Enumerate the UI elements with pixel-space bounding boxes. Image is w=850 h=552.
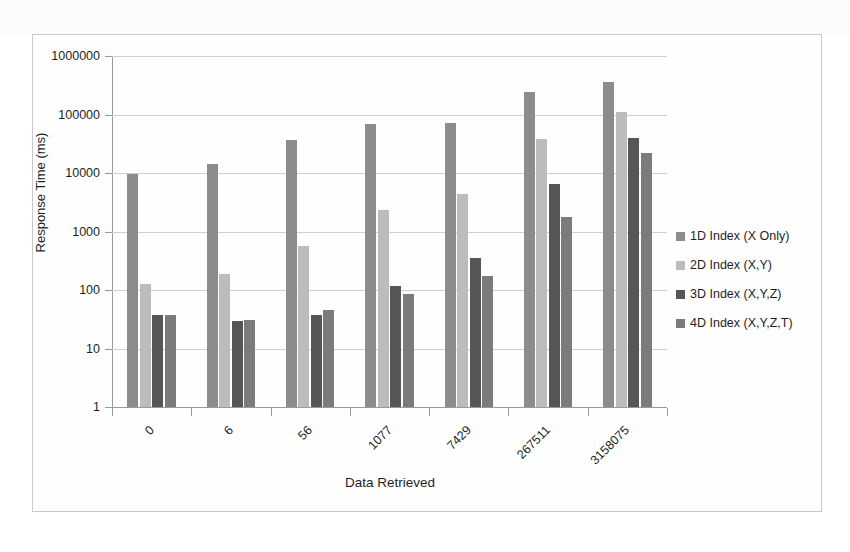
y-tick-mark-1 xyxy=(105,407,112,408)
x-axis-title: Data Retrieved xyxy=(225,475,555,490)
legend-item-3[interactable]: 3D Index (X,Y,Z) xyxy=(676,280,841,309)
x-tick-label-0: 0 xyxy=(62,423,157,518)
legend-label-4: 4D Index (X,Y,Z,T) xyxy=(690,317,793,330)
x-tick-label-6: 6 xyxy=(141,423,236,518)
legend-swatch-icon-3 xyxy=(676,290,685,299)
legend-swatch-icon-2 xyxy=(676,261,685,270)
legend-item-2[interactable]: 2D Index (X,Y) xyxy=(676,251,841,280)
legend-label-1: 1D Index (X Only) xyxy=(690,230,789,243)
x-tick-label-1077: 1077 xyxy=(300,423,395,518)
x-tick-label-3158075: 3158075 xyxy=(538,423,633,518)
x-tick-label-56: 56 xyxy=(220,423,315,518)
y-tick-mark-10000 xyxy=(105,173,112,174)
x-tick-label-7429: 7429 xyxy=(379,423,474,518)
legend-swatch-icon-4 xyxy=(676,319,685,328)
y-tick-mark-100 xyxy=(105,290,112,291)
legend-swatch-icon-1 xyxy=(676,232,685,241)
legend-item-1[interactable]: 1D Index (X Only) xyxy=(676,222,841,251)
y-tick-mark-10 xyxy=(105,349,112,350)
y-tick-mark-1000000 xyxy=(105,56,112,57)
x-tick-label-267511: 267511 xyxy=(458,423,553,518)
chart-legend: 1D Index (X Only)2D Index (X,Y)3D Index … xyxy=(676,222,841,338)
y-tick-mark-1000 xyxy=(105,232,112,233)
legend-item-4[interactable]: 4D Index (X,Y,Z,T) xyxy=(676,309,841,338)
legend-label-2: 2D Index (X,Y) xyxy=(690,259,772,272)
legend-label-3: 3D Index (X,Y,Z) xyxy=(690,288,781,301)
y-tick-mark-100000 xyxy=(105,115,112,116)
